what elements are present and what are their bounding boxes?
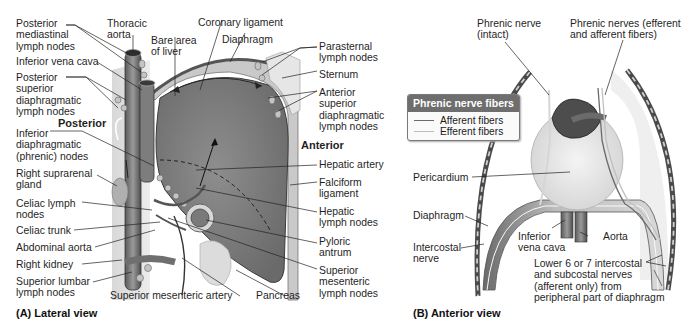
label-pancreas: Pancreas [256, 290, 300, 301]
label-coronary-ligament: Coronary ligament [198, 17, 283, 28]
anatomy-figure: Posterior mediastinal lymph nodes Inferi… [0, 0, 697, 329]
label-celiac-trunk: Celiac trunk [16, 225, 71, 236]
legend-item-efferent: Efferent fibers [408, 126, 519, 137]
label-lower-intercostal-subcostal-nerves: Lower 6 or 7 intercostal and subcostal n… [534, 258, 665, 304]
label-inferior-vena-cava-b: Inferior vena cava [518, 231, 565, 254]
label-right-kidney: Right kidney [16, 259, 73, 270]
label-sternum: Sternum [319, 69, 358, 80]
phrenic-nerve-fibers-legend: Phrenic nerve fibers Afferent fibers Eff… [407, 94, 520, 141]
label-pericardium: Pericardium [413, 172, 468, 183]
label-superior-mesenteric-artery: Superior mesenteric artery [110, 290, 232, 301]
label-celiac-lymph-nodes: Celiac lymph nodes [16, 198, 75, 221]
label-diaphragm-a: Diaphragm [222, 34, 273, 45]
legend-title: Phrenic nerve fibers [408, 95, 519, 112]
legend-label-afferent: Afferent fibers [440, 115, 503, 126]
label-anterior-superior-diaphragmatic-lymph-nodes: Anterior superior diaphragmatic lymph no… [319, 87, 384, 133]
label-hepatic-lymph-nodes: Hepatic lymph nodes [319, 206, 378, 229]
label-hepatic-artery: Hepatic artery [319, 159, 384, 170]
label-posterior-superior-diaphragmatic-lymph-nodes: Posterior superior diaphragmatic lymph n… [16, 72, 81, 118]
label-phrenic-nerves-efferent-afferent: Phrenic nerves (efferent and afferent fi… [570, 18, 681, 41]
legend-label-efferent: Efferent fibers [440, 126, 503, 137]
label-bare-area-of-liver: Bare area of liver [151, 35, 197, 58]
label-falciform-ligament: Falciform ligament [319, 177, 362, 200]
label-parasternal-lymph-nodes: Parasternal lymph nodes [319, 41, 378, 64]
efferent-line-swatch [414, 131, 434, 132]
label-right-suprarenal-gland: Right suprarenal gland [16, 168, 92, 191]
label-superior-lumbar-lymph-nodes: Superior lumbar lymph nodes [16, 276, 90, 299]
afferent-line-swatch [414, 120, 434, 121]
label-diaphragm-b: Diaphragm [413, 210, 464, 221]
label-thoracic-aorta: Thoracic aorta [107, 18, 147, 41]
lateral-view-illustration [112, 50, 300, 301]
label-aorta: Aorta [603, 231, 628, 242]
label-inferior-vena-cava: Inferior vena cava [16, 56, 99, 67]
caption-lateral-view: (A) Lateral view [16, 307, 97, 319]
label-pyloric-antrum: Pyloric antrum [319, 236, 351, 259]
label-posterior-mediastinal-lymph-nodes: Posterior mediastinal lymph nodes [16, 18, 75, 52]
caption-anterior-view: (B) Anterior view [413, 307, 501, 319]
label-anterior: Anterior [301, 140, 344, 151]
label-inferior-diaphragmatic-nodes: Inferior diaphragmatic (phrenic) nodes [16, 128, 88, 162]
legend-item-afferent: Afferent fibers [408, 115, 519, 126]
label-phrenic-nerve-intact: Phrenic nerve (intact) [477, 18, 541, 41]
label-superior-mesenteric-lymph-nodes: Superior mesenteric lymph nodes [319, 265, 378, 299]
label-abdominal-aorta: Abdominal aorta [16, 242, 92, 253]
label-intercostal-nerve: Intercostal nerve [413, 242, 461, 265]
